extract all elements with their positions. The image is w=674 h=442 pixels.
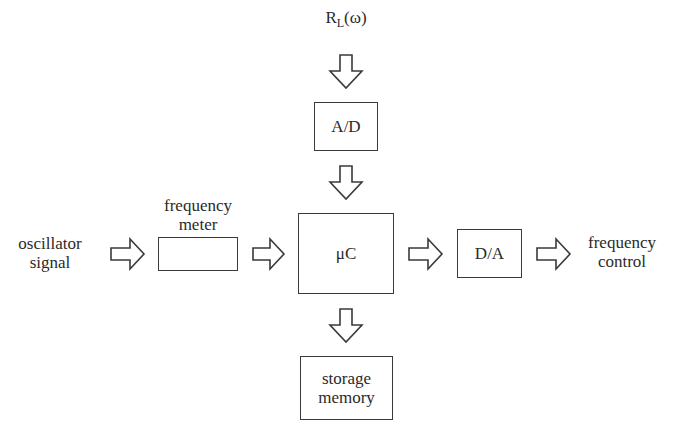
arrow-right-icon [537,239,570,269]
arrow-down-icon [330,166,362,199]
rl-suffix: (ω) [344,8,367,27]
arrow-right-uc-to-da [408,239,444,271]
rl-main: R [325,8,336,27]
ad-converter-block: A/D [314,102,378,151]
da-label: D/A [475,244,504,263]
arrow-right-icon [409,239,442,269]
da-converter-block: D/A [457,229,522,278]
frequency-meter-label: frequency meter [150,196,246,234]
frequency-control-label: frequency control [574,233,670,271]
arrow-right-icon [253,239,284,269]
arrow-down-rl-to-ad [330,54,364,90]
arrow-right-icon [111,239,144,269]
arrow-down-icon [330,55,362,88]
uc-label: μC [336,244,356,263]
frequency-meter-block [158,237,238,271]
oscillator-signal-label: oscillator signal [2,234,98,272]
arrow-down-icon [330,309,362,342]
microcontroller-block: μC [298,213,394,294]
arrow-down-ad-to-uc [330,165,364,201]
rl-subscript: L [337,16,344,30]
input-rl-omega-label: RL(ω) [306,8,386,33]
arrow-down-uc-to-storage [330,308,364,344]
ad-label: A/D [331,117,360,136]
arrow-right-da-to-control [536,239,572,271]
storage-memory-block: storage memory [300,356,393,420]
arrow-right-meter-to-uc [252,239,288,271]
storage-memory-label: storage memory [318,369,375,407]
arrow-right-osc-to-meter [110,239,146,271]
